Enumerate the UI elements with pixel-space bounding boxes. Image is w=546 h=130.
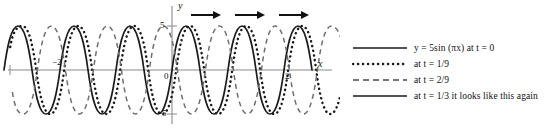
legend-item-dotted-t19: at t = 1/9 — [352, 56, 546, 72]
motion-arrow-3 — [279, 11, 309, 19]
motion-arrows — [191, 11, 309, 19]
x-tick-label-2: 2 — [285, 71, 290, 81]
legend-item-dashed-t29: at t = 2/9 — [352, 72, 546, 88]
plot-canvas — [0, 0, 340, 130]
legend-swatch-dotted — [352, 58, 408, 70]
y-axis-label: y — [178, 0, 182, 11]
x-tick-label-neg2: −2 — [52, 57, 62, 67]
legend-swatch-solid — [352, 42, 408, 54]
legend-swatch-solid-again — [352, 90, 408, 102]
legend: y = 5sin (πx) at t = 0 at t = 1/9 at t =… — [352, 40, 546, 104]
x-axis-label: x — [318, 58, 322, 69]
legend-item-solid-t0: y = 5sin (πx) at t = 0 — [352, 40, 546, 56]
legend-label-solid-t0: y = 5sin (πx) at t = 0 — [408, 43, 494, 53]
legend-label-dotted-t19: at t = 1/9 — [408, 59, 449, 69]
y-tick-label-neg5: −5 — [157, 108, 167, 118]
legend-swatch-dashed — [352, 74, 408, 86]
y-tick-label-5: 5 — [160, 20, 165, 30]
legend-item-solid-t13: at t = 1/3 it looks like this again — [352, 88, 546, 104]
legend-label-solid-t13: at t = 1/3 it looks like this again — [408, 91, 538, 101]
plot-area: y x 5 −5 −2 0 2 — [0, 0, 340, 130]
figure-root: y x 5 −5 −2 0 2 y = 5sin (πx) at t = 0 a… — [0, 0, 546, 130]
legend-label-dashed-t29: at t = 2/9 — [408, 75, 449, 85]
x-tick-label-0: 0 — [164, 71, 169, 81]
motion-arrow-2 — [235, 11, 265, 19]
motion-arrow-1 — [191, 11, 221, 19]
